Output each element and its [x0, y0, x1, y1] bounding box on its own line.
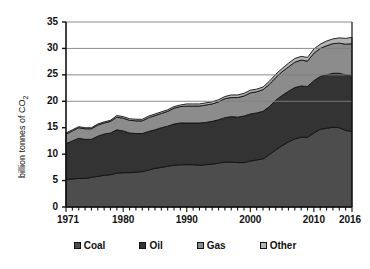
- x-tick-label-2016: 2016: [330, 214, 370, 225]
- x-tick-label-2010: 2010: [294, 214, 334, 225]
- y-tick-label-30: 30: [34, 42, 58, 53]
- x-tick-label-1990: 1990: [167, 214, 207, 225]
- y-tick-label-20: 20: [34, 95, 58, 106]
- legend-swatch-fill: [140, 243, 145, 248]
- x-tick-label-1980: 1980: [103, 214, 143, 225]
- legend-swatch-other: [260, 242, 267, 249]
- chart-legend: CoalOilGasOther: [0, 240, 370, 251]
- legend-swatch-fill: [261, 243, 266, 248]
- legend-swatch-oil: [139, 242, 146, 249]
- x-tick-label-2000: 2000: [230, 214, 270, 225]
- legend-label-gas: Gas: [207, 240, 226, 251]
- x-tick-label-1971: 1971: [48, 214, 88, 225]
- y-tick-label-10: 10: [34, 148, 58, 159]
- y-tick-label-35: 35: [34, 16, 58, 27]
- legend-item-coal[interactable]: Coal: [74, 240, 106, 251]
- y-axis-title: billion tonnes of CO2: [17, 96, 29, 178]
- stacked-area-plot: [0, 0, 370, 269]
- chart-figure: billion tonnes of CO2 05101520253035 197…: [0, 0, 370, 269]
- legend-swatch-gas: [197, 242, 204, 249]
- legend-label-coal: Coal: [84, 240, 106, 251]
- legend-swatch-coal: [74, 242, 81, 249]
- legend-label-other: Other: [270, 240, 297, 251]
- y-axis-title-text: billion tonnes of CO: [17, 99, 27, 178]
- legend-item-gas[interactable]: Gas: [197, 240, 226, 251]
- legend-item-oil[interactable]: Oil: [139, 240, 162, 251]
- legend-swatch-fill: [198, 243, 203, 248]
- legend-label-oil: Oil: [149, 240, 162, 251]
- y-tick-label-25: 25: [34, 68, 58, 79]
- y-tick-label-5: 5: [34, 174, 58, 185]
- legend-swatch-fill: [75, 243, 80, 248]
- legend-item-other[interactable]: Other: [260, 240, 297, 251]
- y-axis-title-subscript: 2: [22, 96, 29, 100]
- y-tick-label-15: 15: [34, 121, 58, 132]
- y-tick-label-0: 0: [34, 201, 58, 212]
